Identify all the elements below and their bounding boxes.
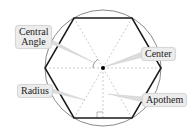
center-point <box>101 66 105 70</box>
central-angle-line2: Angle <box>19 37 48 47</box>
center-label: Center <box>141 47 176 61</box>
radius-label: Radius <box>17 84 53 98</box>
label-pointers <box>48 38 143 102</box>
hexagon-diagram <box>0 0 196 128</box>
central-angle-arc <box>93 59 98 68</box>
central-angle-label: Central Angle <box>15 25 52 49</box>
right-angle-marker <box>97 112 103 118</box>
apothem-label: Apothem <box>142 93 187 107</box>
